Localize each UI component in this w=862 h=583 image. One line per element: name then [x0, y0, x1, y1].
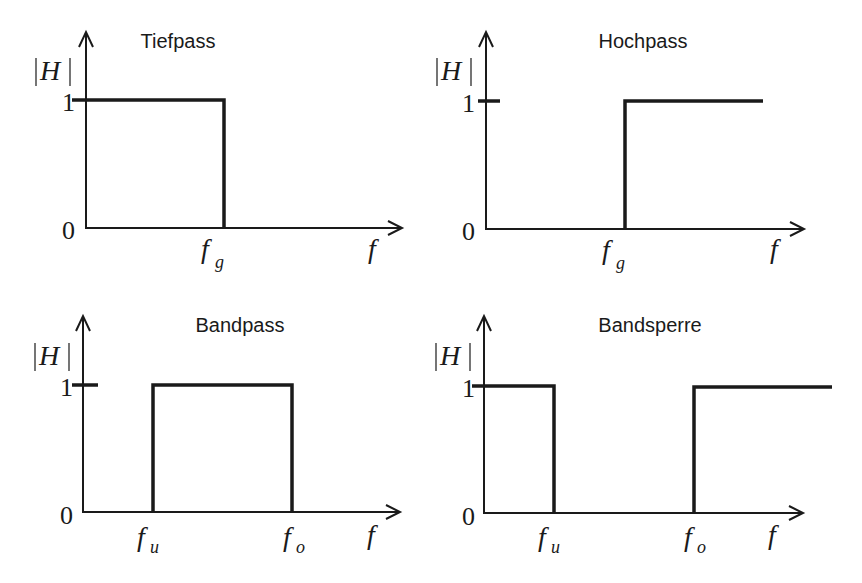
svg-text:f: f	[538, 521, 549, 552]
y-axis-label: H	[35, 340, 69, 371]
panel-hochpass: Hochpass H 1 0 f g f	[437, 30, 804, 273]
x-axis-label: f	[367, 519, 378, 550]
panel-title: Hochpass	[599, 30, 688, 52]
svg-text:H: H	[39, 55, 62, 86]
svg-text:H: H	[440, 55, 463, 86]
response-curve-high	[694, 387, 832, 513]
y-tick-0: 0	[62, 216, 75, 245]
y-tick-1: 1	[462, 374, 475, 403]
response-curve	[72, 100, 224, 228]
panel-title: Bandsperre	[598, 314, 701, 336]
svg-text:H: H	[38, 340, 61, 371]
svg-text:f: f	[201, 233, 212, 264]
marker-fu: f u	[538, 521, 560, 557]
panel-title: Bandpass	[196, 314, 285, 336]
y-tick-0: 0	[462, 217, 475, 246]
marker-fu: f u	[137, 521, 159, 557]
panel-tiefpass: Tiefpass f H 1 0 f g f	[36, 30, 402, 272]
svg-text:u: u	[150, 537, 159, 557]
marker-fo: f o	[283, 521, 305, 557]
y-tick-0: 0	[60, 501, 73, 530]
svg-text:f: f	[137, 521, 148, 552]
y-tick-1: 1	[60, 373, 73, 402]
marker-fo: f o	[684, 521, 706, 557]
svg-text:g: g	[616, 253, 625, 273]
panel-bandpass: Bandpass H 1 0 f u f o f	[35, 314, 400, 557]
svg-text:H: H	[439, 340, 462, 371]
y-tick-1: 1	[62, 88, 75, 117]
response-curve	[153, 385, 292, 512]
y-axis-label: H	[436, 340, 470, 371]
svg-text:o: o	[296, 537, 305, 557]
panel-bandsperre: Bandsperre H 1 0 f u f o f	[436, 314, 832, 557]
marker-fg: f g	[201, 233, 224, 272]
svg-text:f: f	[283, 521, 294, 552]
panel-title: Tiefpass	[141, 30, 216, 52]
response-curve	[625, 101, 763, 229]
svg-text:f: f	[684, 521, 695, 552]
filter-diagrams: Tiefpass f H 1 0 f g f Hochpass	[0, 0, 862, 583]
svg-text:o: o	[697, 537, 706, 557]
svg-text:g: g	[215, 252, 224, 272]
marker-fg: f g	[602, 234, 625, 273]
svg-text:f: f	[602, 234, 613, 265]
svg-text:u: u	[551, 537, 560, 557]
x-axis-label: f	[770, 233, 781, 264]
y-axis-label: H	[437, 55, 471, 86]
y-tick-1: 1	[462, 89, 475, 118]
y-tick-0: 0	[462, 502, 475, 531]
y-axis-label: f H	[36, 55, 70, 86]
x-axis-label: f	[368, 233, 379, 264]
x-axis-label: f	[768, 519, 779, 550]
